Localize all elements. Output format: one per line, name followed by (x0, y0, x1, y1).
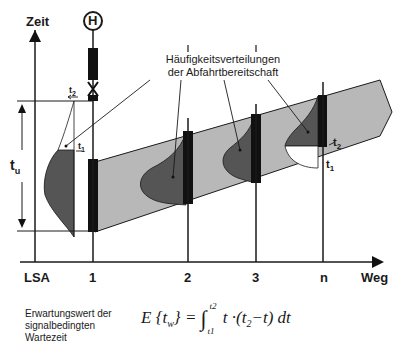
lsa-distribution (44, 150, 74, 237)
lsa-distribution-tail (58, 101, 74, 150)
leader-dot-lsa (65, 145, 68, 148)
tick-stop1: 1 (89, 270, 96, 285)
formula-description: Erwartungswert der signalbedingten Warte… (25, 308, 112, 344)
distribution-callout: Häufigkeitsverteilungen der Abfahrtberei… (163, 53, 283, 79)
leader-dot-stopn (307, 131, 310, 134)
leader-lsa (66, 80, 150, 146)
t1-right-sub: 1 (330, 164, 334, 173)
formula-integral: ∫ t2 t1 (201, 306, 215, 332)
formula-lhs-close: } = (174, 308, 197, 327)
tick-lsa: LSA (24, 270, 50, 285)
stop1-dwell-bottom (88, 95, 98, 101)
t1-left-label: t1 (78, 141, 85, 153)
stop1-upper-bar (88, 48, 98, 80)
t2-left-sub: 2 (72, 90, 76, 97)
leader-dot-stop2 (172, 176, 175, 179)
formula-desc-line-3: Wartezeit (25, 332, 112, 344)
x-axis-label: Weg (361, 270, 388, 285)
t2-left-label: t2 (69, 85, 76, 97)
tick-stop3: 3 (252, 270, 259, 285)
formula-desc-line-2: signalbedingten (25, 320, 112, 332)
expected-wait-formula: E {tw} = ∫ t2 t1 t ·(t2−t) dt (141, 306, 291, 332)
integral-lower: t1 (208, 326, 215, 336)
y-axis-label: Zeit (26, 14, 49, 29)
bus-stop-letter: H (88, 13, 97, 28)
callout-line-2: der Abfahrtbereitschaft (163, 66, 283, 79)
formula-lhs-sub: w (167, 318, 174, 329)
tick-stop2: 2 (184, 270, 191, 285)
integral-sign: ∫ (201, 306, 207, 331)
t2-right-label: t2 (333, 136, 341, 151)
tick-stopn: n (320, 270, 328, 285)
formula-lhs: E {t (141, 308, 167, 327)
y-axis-arrow (29, 30, 41, 42)
tu-label: tu (10, 157, 20, 176)
callout-line-1: Häufigkeitsverteilungen (163, 53, 283, 66)
formula-integrand-rest: −t) dt (251, 308, 290, 327)
tu-sub: u (15, 166, 21, 176)
t1-right-label: t1 (326, 158, 334, 173)
tu-arrow-up (18, 104, 26, 113)
formula-integrand: t ·(t (223, 308, 247, 327)
t2-right-sub: 2 (337, 142, 341, 151)
tu-arrow-down (18, 219, 26, 228)
integral-upper: t2 (210, 301, 217, 311)
leader-dot-stop3 (239, 149, 242, 152)
t1-left-sub: 1 (81, 146, 85, 153)
x-axis-arrow (372, 256, 384, 268)
formula-desc-line-1: Erwartungswert der (25, 308, 112, 320)
